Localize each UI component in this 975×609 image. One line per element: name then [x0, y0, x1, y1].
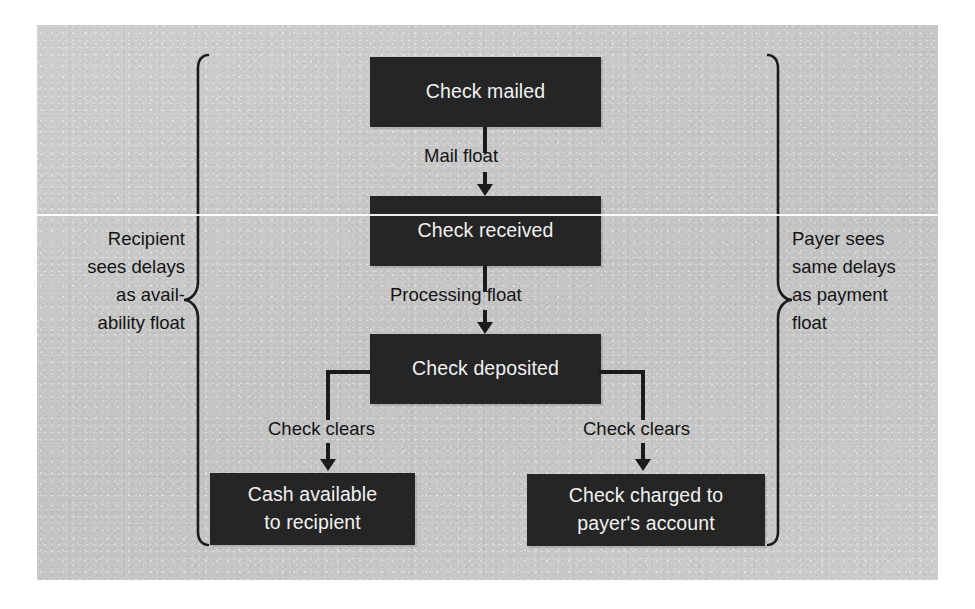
annotation-right-payer: Payer sees same delays as payment float	[792, 225, 927, 337]
node-check-received: Check received	[370, 196, 601, 266]
annotation-right-line1: Payer sees	[792, 225, 927, 253]
annotation-left-line1: Recipient	[60, 225, 185, 253]
connector-received-to-deposited-lower	[483, 310, 487, 322]
annotation-right-line2: same delays	[792, 253, 927, 281]
annotation-right-line4: float	[792, 309, 927, 337]
annotation-left-line4: ability float	[60, 309, 185, 337]
node-cash-available-line1: Cash available	[248, 481, 377, 509]
node-check-charged-line1: Check charged to	[569, 482, 723, 510]
annotation-left-line2: sees delays	[60, 253, 185, 281]
node-check-mailed: Check mailed	[370, 57, 601, 127]
edge-label-check-clears-left: Check clears	[268, 418, 375, 440]
edge-label-check-clears-right: Check clears	[583, 418, 690, 440]
node-check-deposited: Check deposited	[370, 334, 601, 404]
node-check-received-label: Check received	[418, 217, 554, 245]
node-check-charged-line2: payer's account	[569, 510, 723, 538]
connector-branch-right-vertical	[641, 370, 645, 420]
node-check-deposited-label: Check deposited	[412, 355, 559, 383]
annotation-right-line3: as payment	[792, 281, 927, 309]
node-cash-available-line2: to recipient	[248, 509, 377, 537]
diagram-canvas: Check mailed Check received Check deposi…	[0, 0, 975, 609]
arrowhead-icon-check-clears-left	[320, 459, 336, 471]
annotation-left-recipient: Recipient sees delays as avail- ability …	[60, 225, 185, 337]
edge-label-processing-float: Processing float	[390, 284, 522, 306]
scan-artifact-line	[37, 214, 938, 216]
edge-label-mail-float: Mail float	[424, 145, 498, 167]
connector-branch-left-vertical	[326, 370, 330, 420]
connector-mailed-to-received-lower	[483, 172, 487, 184]
connector-branch-left-horizontal	[326, 370, 372, 374]
node-check-charged: Check charged to payer's account	[527, 474, 765, 546]
arrowhead-icon-mail-float	[477, 184, 493, 196]
connector-branch-right-horizontal	[599, 370, 645, 374]
arrowhead-icon-processing-float	[477, 322, 493, 334]
arrowhead-icon-check-clears-right	[635, 459, 651, 471]
node-check-mailed-label: Check mailed	[426, 78, 545, 106]
node-cash-available: Cash available to recipient	[210, 473, 415, 545]
annotation-left-line3: as avail-	[60, 281, 185, 309]
